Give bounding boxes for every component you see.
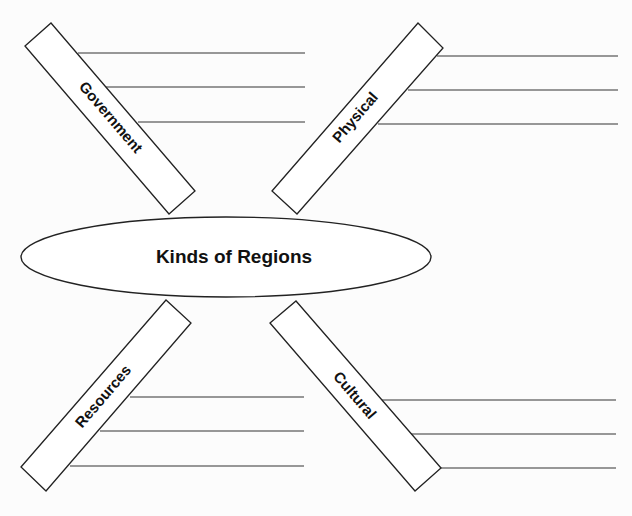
center-topic: Kinds of Regions [21, 217, 431, 297]
branch-government: Government [25, 23, 305, 214]
branch-resources: Resources [21, 300, 304, 491]
kinds-of-regions-web-diagram: Government Physical Kinds of Regions Res… [0, 0, 632, 516]
center-title: Kinds of Regions [156, 246, 312, 267]
branch-physical: Physical [272, 23, 618, 214]
branch-cultural: Cultural [270, 301, 616, 491]
